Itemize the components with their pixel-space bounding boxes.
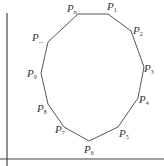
vertex-label: P... bbox=[31, 31, 44, 44]
vertex-label: P5 bbox=[118, 127, 129, 140]
vertex-label: P4 bbox=[138, 93, 149, 106]
vertex-label: P6 bbox=[83, 143, 94, 156]
vertex-label: P3 bbox=[143, 62, 154, 75]
vertex-label: P2 bbox=[132, 24, 143, 37]
vertex-label: P8 bbox=[36, 102, 47, 115]
vertex-label: P9 bbox=[26, 67, 37, 80]
polygon-shape bbox=[41, 14, 144, 141]
vertex-label: Pn bbox=[66, 2, 77, 15]
vertex-label: P1 bbox=[106, 0, 117, 13]
vertex-labels: PnP1P2P3P4P5P6P7P8P9P... bbox=[26, 0, 154, 156]
polygon-diagram: PnP1P2P3P4P5P6P7P8P9P... bbox=[0, 0, 164, 166]
